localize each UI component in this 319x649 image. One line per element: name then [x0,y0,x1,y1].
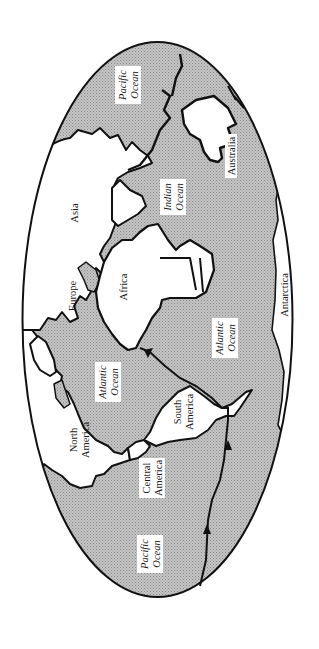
svg-text:Ocean: Ocean [174,183,185,210]
svg-text:Australia: Australia [226,136,237,175]
svg-text:Europe: Europe [67,281,78,312]
svg-text:America: America [153,460,164,496]
label-australia: Australia [225,134,237,178]
label-pacific-ocean-bottom: Pacific Ocean [137,535,163,573]
svg-text:Atlantic: Atlantic [97,365,108,400]
label-atlantic-ocean-south: Atlantic Ocean [212,318,238,358]
label-africa: Africa [118,273,129,300]
label-indian-ocean: Indian Ocean [160,179,186,215]
svg-text:Central: Central [141,462,152,493]
svg-text:Atlantic: Atlantic [214,321,225,356]
label-europe: Europe [67,281,78,312]
svg-text:America: America [184,394,195,430]
ocean [23,42,293,597]
svg-text:Antarctica: Antarctica [279,273,290,317]
svg-text:Pacific: Pacific [139,539,150,570]
label-atlantic-ocean-north: Atlantic Ocean [95,362,121,402]
label-central-america: Central America [139,458,165,498]
svg-text:Ocean: Ocean [109,368,120,395]
svg-text:Ocean: Ocean [129,71,140,98]
svg-text:Africa: Africa [118,273,129,300]
svg-text:Indian: Indian [162,183,173,211]
svg-text:America: America [80,422,91,458]
svg-text:Ocean: Ocean [226,324,237,351]
svg-text:Pacific: Pacific [117,70,128,101]
svg-text:North: North [68,427,79,452]
label-antarctica: Antarctica [279,273,290,317]
svg-text:South: South [172,399,183,424]
world-map: Pacific Ocean Indian Ocean Australia Asi… [0,0,319,649]
label-pacific-ocean-top: Pacific Ocean [115,66,141,104]
label-asia: Asia [69,203,80,223]
svg-text:Asia: Asia [69,203,80,223]
svg-text:Ocean: Ocean [151,540,162,567]
